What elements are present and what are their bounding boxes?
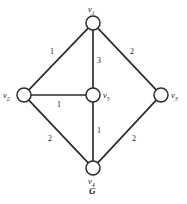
graph-canvas <box>0 0 187 204</box>
figure-caption: G <box>89 187 96 196</box>
edge-v1-v3 <box>98 28 156 90</box>
vertex-v3 <box>154 88 168 102</box>
vertex-v1 <box>86 16 100 30</box>
edge-v2-v4 <box>29 100 88 163</box>
vertex-v2 <box>17 88 31 102</box>
vertex-v4 <box>86 161 100 175</box>
edge-v1-v2 <box>29 28 88 90</box>
edge-v4-v3 <box>98 100 156 163</box>
vertex-v5 <box>86 88 100 102</box>
graph-figure: 1231212v1v2v3v4v5 G <box>0 0 187 204</box>
